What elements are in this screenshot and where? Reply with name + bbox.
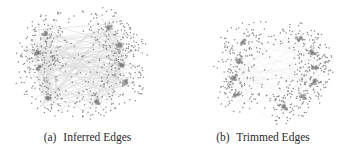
subfigure-label: (b) — [216, 131, 229, 143]
caption-inferred-edges: (a) Inferred Edges — [0, 131, 175, 143]
caption-trimmed-edges: (b) Trimmed Edges — [175, 131, 351, 143]
panel-inferred-edges: (a) Inferred Edges — [0, 0, 175, 151]
caption-text: Inferred Edges — [63, 131, 131, 143]
graph-plot-inferred-edges — [0, 0, 175, 130]
caption-text: Trimmed Edges — [236, 131, 309, 143]
graph-plot-trimmed-edges — [175, 0, 351, 130]
panel-trimmed-edges: (b) Trimmed Edges — [175, 0, 351, 151]
subfigure-label: (a) — [44, 131, 57, 143]
